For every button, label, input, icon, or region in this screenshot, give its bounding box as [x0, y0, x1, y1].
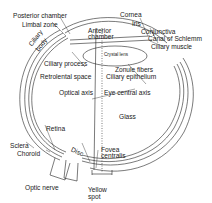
label-ciliary-process: Ciliary process	[44, 60, 87, 67]
label-fovea-centralis-2: centralis	[101, 152, 126, 159]
label-anterior-chamber-2: chamber	[88, 33, 114, 40]
label-cornea: Cornea	[120, 11, 142, 18]
label-ciliary-epithelium: Ciliary epithelium	[106, 73, 156, 80]
label-glass: Glass	[119, 113, 136, 120]
label-yellow-spot-2: spot	[88, 193, 100, 200]
label-conjunctiva: Conjunctiva	[141, 28, 175, 35]
label-canal-of-schlemm: Canal of Schlemm	[148, 35, 202, 42]
optic-nerve	[50, 158, 70, 180]
label-iris: Iris	[132, 20, 141, 27]
optical-axis-line	[94, 28, 96, 170]
label-retrolental-space: Retrolental space	[40, 73, 91, 80]
label-limbal-zone: Limbal zone	[22, 21, 58, 28]
label-crystal-lens: Crystal lens	[104, 52, 128, 57]
label-zonule-fibers: Zonule fibers	[115, 66, 153, 73]
label-optical-axis: Optical axis	[59, 89, 93, 96]
label-sclera: Sclera	[10, 142, 29, 149]
label-posterior-chamber: Posterior chamber	[13, 12, 67, 19]
label-retina: Retina	[46, 125, 65, 132]
label-eye-central-axis: Eye central axis	[104, 89, 151, 96]
label-ciliary-muscle: Ciliary muscle	[151, 43, 192, 50]
label-optic-nerve: Optic nerve	[25, 184, 59, 191]
label-yellow-spot: Yellow	[88, 186, 107, 193]
label-choroid: Choroid	[17, 150, 40, 157]
